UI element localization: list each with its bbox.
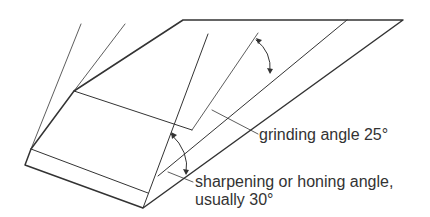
chisel-angle-diagram: grinding angle 25° sharpening or honing … xyxy=(0,0,430,217)
grinding-angle-label: grinding angle 25° xyxy=(259,126,388,144)
sharpening-angle-label-line2: usually 30° xyxy=(195,191,273,209)
sharpening-angle-label-line1: sharpening or honing angle, xyxy=(195,173,393,191)
